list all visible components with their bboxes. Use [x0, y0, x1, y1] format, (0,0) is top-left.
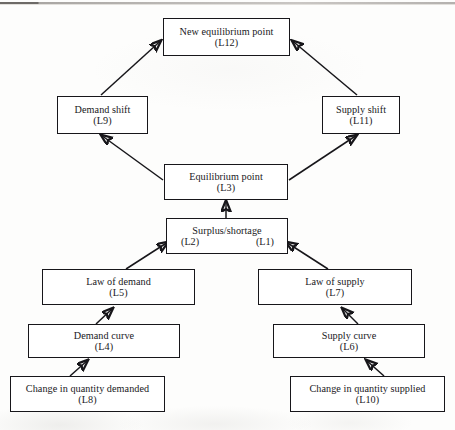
node-label: Law of demand — [86, 276, 151, 287]
edge-L10-to-L6 — [366, 360, 384, 376]
node-code-left: (L2) — [181, 236, 199, 247]
node-code: (L7) — [326, 287, 344, 298]
node-demand-shift[interactable]: Demand shift (L9) — [57, 96, 148, 134]
node-change-in-quantity-supplied[interactable]: Change in quantity supplied (L10) — [290, 376, 445, 412]
edge-L11-to-L12 — [292, 41, 357, 96]
edge-L4-to-L5 — [96, 308, 113, 324]
node-label: New equilibrium point — [180, 26, 274, 37]
edge-L6-to-L7 — [342, 308, 358, 324]
node-label: Surplus/shortage — [192, 225, 261, 236]
node-surplus-shortage[interactable]: Surplus/shortage (L2) (L1) — [166, 218, 288, 254]
node-law-of-demand[interactable]: Law of demand (L5) — [42, 269, 195, 305]
node-label: Supply shift — [336, 104, 386, 115]
node-label: Change in quantity supplied — [310, 383, 426, 394]
node-code: (L12) — [215, 37, 238, 48]
node-equilibrium-point[interactable]: Equilibrium point (L3) — [164, 164, 288, 200]
connector-layer — [0, 0, 455, 430]
node-supply-curve[interactable]: Supply curve (L6) — [273, 324, 425, 358]
node-code: (L6) — [340, 341, 358, 352]
node-code-row: (L2) (L1) — [167, 236, 287, 247]
edge-L8-to-L4 — [70, 360, 88, 376]
node-label: Supply curve — [322, 330, 377, 341]
edge-L3-to-L9 — [101, 135, 163, 180]
node-code: (L10) — [356, 394, 379, 405]
node-code: (L11) — [349, 115, 372, 126]
node-label: Law of supply — [305, 276, 365, 287]
node-label: Demand shift — [75, 104, 131, 115]
node-label: Demand curve — [74, 330, 134, 341]
node-label: Equilibrium point — [189, 171, 263, 182]
node-new-equilibrium-point[interactable]: New equilibrium point (L12) — [163, 18, 290, 56]
node-code: (L8) — [78, 394, 96, 405]
node-change-in-quantity-demanded[interactable]: Change in quantity demanded (L8) — [10, 376, 165, 412]
node-code-right: (L1) — [256, 236, 274, 247]
diagram-page: New equilibrium point (L12) Demand shift… — [0, 0, 455, 430]
edge-L3-to-L11 — [289, 135, 357, 180]
node-law-of-supply[interactable]: Law of supply (L7) — [258, 269, 412, 305]
node-code: (L4) — [95, 341, 113, 352]
node-code: (L3) — [217, 182, 235, 193]
edge-L7-to-L2L1 — [286, 242, 328, 269]
node-code: (L5) — [109, 287, 127, 298]
node-demand-curve[interactable]: Demand curve (L4) — [28, 324, 180, 358]
node-supply-shift[interactable]: Supply shift (L11) — [322, 96, 400, 134]
node-label: Change in quantity demanded — [26, 383, 149, 394]
edge-L5-to-L2L1 — [126, 242, 168, 269]
node-code: (L9) — [93, 115, 111, 126]
edge-L9-to-L12 — [101, 41, 161, 96]
